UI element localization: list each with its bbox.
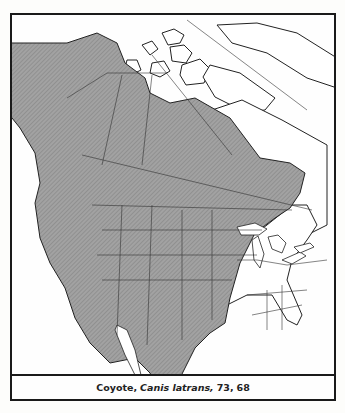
map-caption: Coyote, Canis latrans, 73, 68 (12, 374, 334, 399)
caption-page-ref: 73, (217, 382, 234, 393)
range-area (12, 33, 305, 376)
caption-common-name: Coyote, (96, 382, 137, 393)
caption-scientific-name: Canis latrans, (140, 382, 214, 393)
caption-plate-ref: 68 (237, 382, 250, 393)
range-map (12, 15, 334, 376)
map-frame: Coyote, Canis latrans, 73, 68 (10, 13, 336, 401)
